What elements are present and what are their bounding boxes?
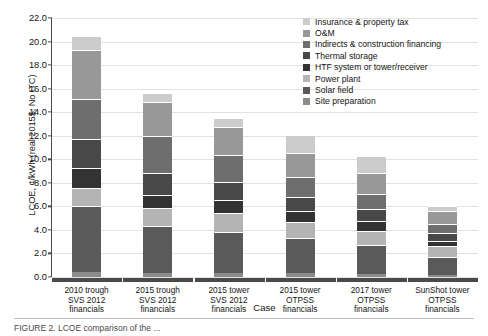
y-tick-label: 20.0 xyxy=(29,37,47,47)
bar-segment xyxy=(357,274,386,277)
bar-segment xyxy=(72,168,101,188)
x-tick-mark xyxy=(122,277,123,282)
bar-segment xyxy=(214,118,243,127)
bar-segment xyxy=(286,177,315,197)
x-axis-title: Case xyxy=(51,302,478,313)
stacked-bar xyxy=(214,118,243,277)
bar-segment xyxy=(72,188,101,207)
gridline xyxy=(52,136,478,137)
bar-segment xyxy=(286,238,315,273)
bar-segment xyxy=(143,208,172,226)
y-axis-line xyxy=(51,18,52,277)
bar-segment xyxy=(428,233,457,240)
y-tick-label: 10.0 xyxy=(29,154,47,164)
chart-legend: Insurance & property taxO&MIndirects & c… xyxy=(303,16,483,107)
y-tick-mark xyxy=(48,135,52,136)
bar-segment xyxy=(72,50,101,99)
x-tick-mark xyxy=(407,277,408,282)
bar-segment xyxy=(214,182,243,200)
bar-segment xyxy=(286,197,315,211)
y-tick-mark xyxy=(48,159,52,160)
y-tick-mark xyxy=(48,229,52,230)
legend-swatch-icon xyxy=(303,52,310,59)
legend-swatch-icon xyxy=(303,18,310,25)
legend-label: O&M xyxy=(315,28,335,38)
stacked-bar xyxy=(143,93,172,277)
stacked-bar xyxy=(72,36,101,277)
bar-segment xyxy=(428,246,457,257)
bar-segment xyxy=(214,155,243,182)
y-tick-mark xyxy=(48,112,52,113)
bar-segment xyxy=(72,272,101,277)
bar-segment xyxy=(143,173,172,195)
legend-item: O&M xyxy=(303,27,483,38)
legend-label: Thermal storage xyxy=(315,51,378,61)
bar-segment xyxy=(357,245,386,274)
legend-item: Thermal storage xyxy=(303,50,483,61)
bar-segment xyxy=(286,211,315,222)
legend-label: Power plant xyxy=(315,74,360,84)
legend-item: Power plant xyxy=(303,73,483,84)
y-tick-label: 18.0 xyxy=(29,60,47,70)
legend-swatch-icon xyxy=(303,30,310,37)
y-tick-mark xyxy=(48,64,52,65)
y-tick-label: 22.0 xyxy=(29,13,47,23)
y-tick-label: 6.0 xyxy=(34,201,47,211)
stacked-bar xyxy=(428,206,457,277)
bar-segment xyxy=(214,273,243,277)
legend-swatch-icon xyxy=(303,75,310,82)
bar-segment xyxy=(286,153,315,177)
y-tick-label: 14.0 xyxy=(29,107,47,117)
legend-swatch-icon xyxy=(303,87,310,94)
legend-item: Site preparation xyxy=(303,96,483,107)
bar-segment xyxy=(357,231,386,245)
y-tick-label: 0.0 xyxy=(34,272,47,282)
gridline xyxy=(52,206,478,207)
bar-segment xyxy=(357,209,386,221)
legend-label: Solar field xyxy=(315,85,353,95)
y-tick-label: 12.0 xyxy=(29,131,47,141)
bar-segment xyxy=(286,273,315,277)
bar-segment xyxy=(286,222,315,238)
y-tick-label: 2.0 xyxy=(34,248,47,258)
x-tick-mark xyxy=(336,277,337,282)
bar-segment xyxy=(214,200,243,213)
figure-caption: FIGURE 2. LCOE comparison of the ... xyxy=(14,323,474,335)
y-tick-mark xyxy=(48,17,52,18)
bar-segment xyxy=(357,194,386,209)
y-tick-label: 16.0 xyxy=(29,84,47,94)
bar-segment xyxy=(357,173,386,194)
bar-segment xyxy=(428,224,457,233)
gridline xyxy=(52,183,478,184)
legend-swatch-icon xyxy=(303,64,310,71)
bar-segment xyxy=(214,232,243,273)
y-tick-mark xyxy=(48,41,52,42)
footer-divider xyxy=(14,318,474,319)
stacked-bar xyxy=(286,135,315,277)
gridline xyxy=(52,159,478,160)
bar-segment xyxy=(143,93,172,102)
legend-label: Insurance & property tax xyxy=(315,17,409,27)
legend-label: Site preparation xyxy=(315,96,376,106)
bar-segment xyxy=(72,206,101,272)
chart-container: LCOE, ¢/kWh (real 2015$, No ITC) 22.020.… xyxy=(0,0,488,336)
bar-segment xyxy=(72,139,101,167)
bar-segment xyxy=(143,273,172,277)
legend-item: HTF system or tower/receiver xyxy=(303,62,483,73)
legend-swatch-icon xyxy=(303,41,310,48)
gridline xyxy=(52,253,478,254)
y-tick-mark xyxy=(48,182,52,183)
x-tick-mark xyxy=(478,277,479,282)
stacked-bar xyxy=(357,156,386,277)
legend-swatch-icon xyxy=(303,98,310,105)
bar-segment xyxy=(72,99,101,139)
legend-item: Indirects & construction financing xyxy=(303,39,483,50)
legend-item: Solar field xyxy=(303,84,483,95)
bar-segment xyxy=(428,211,457,224)
gridline xyxy=(52,230,478,231)
bar-segment xyxy=(357,156,386,172)
bar-segment xyxy=(143,195,172,208)
bar-segment xyxy=(214,127,243,155)
y-tick-mark xyxy=(48,88,52,89)
bar-segment xyxy=(428,257,457,275)
